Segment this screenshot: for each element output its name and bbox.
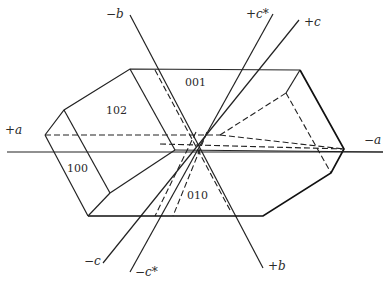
face-label-001: 001 [185, 76, 206, 89]
label-minus-c-star: −c* [135, 265, 158, 279]
c-axis [103, 20, 299, 263]
label-minus-c: −c [84, 254, 101, 268]
face-label-010: 010 [187, 189, 208, 202]
label-plus-a: +a [5, 123, 22, 137]
label-plus-c: +c [304, 15, 321, 29]
label-minus-a: −a [364, 133, 381, 147]
crystal-outline [45, 69, 383, 216]
crystal-diagram: +a −a −b +b +c* +c −c −c* 001 102 100 01… [0, 0, 392, 282]
label-plus-c-star: +c* [246, 7, 269, 21]
label-plus-b: +b [268, 259, 286, 273]
axis-lines [7, 14, 383, 272]
face-label-100: 100 [67, 162, 88, 175]
c-star-axis [130, 14, 273, 272]
label-minus-b: −b [106, 7, 124, 21]
b-axis [130, 15, 263, 268]
face-label-102: 102 [106, 104, 127, 117]
